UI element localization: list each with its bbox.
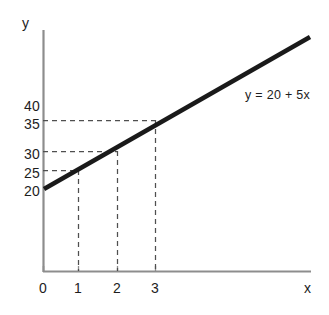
x-tick-label-1: 1 <box>69 281 87 295</box>
equation-label: y = 20 + 5x <box>245 89 310 102</box>
y-tick-label-35: 35 <box>12 117 40 131</box>
y-tick-label-40: 40 <box>12 99 40 113</box>
x-axis-label: x <box>304 281 311 295</box>
y-tick-label-20: 20 <box>12 184 40 198</box>
x-tick-label-3: 3 <box>146 281 164 295</box>
data-line-series-1 <box>44 37 310 189</box>
chart-plot-area <box>0 0 329 315</box>
chart-figure: 40 35 30 25 20 0 1 2 3 y x y = 20 + 5x <box>0 0 329 315</box>
y-tick-label-25: 25 <box>12 166 40 180</box>
x-tick-label-2: 2 <box>108 281 126 295</box>
y-axis-label: y <box>22 16 29 30</box>
y-tick-label-30: 30 <box>12 147 40 161</box>
x-tick-label-0: 0 <box>34 281 52 295</box>
